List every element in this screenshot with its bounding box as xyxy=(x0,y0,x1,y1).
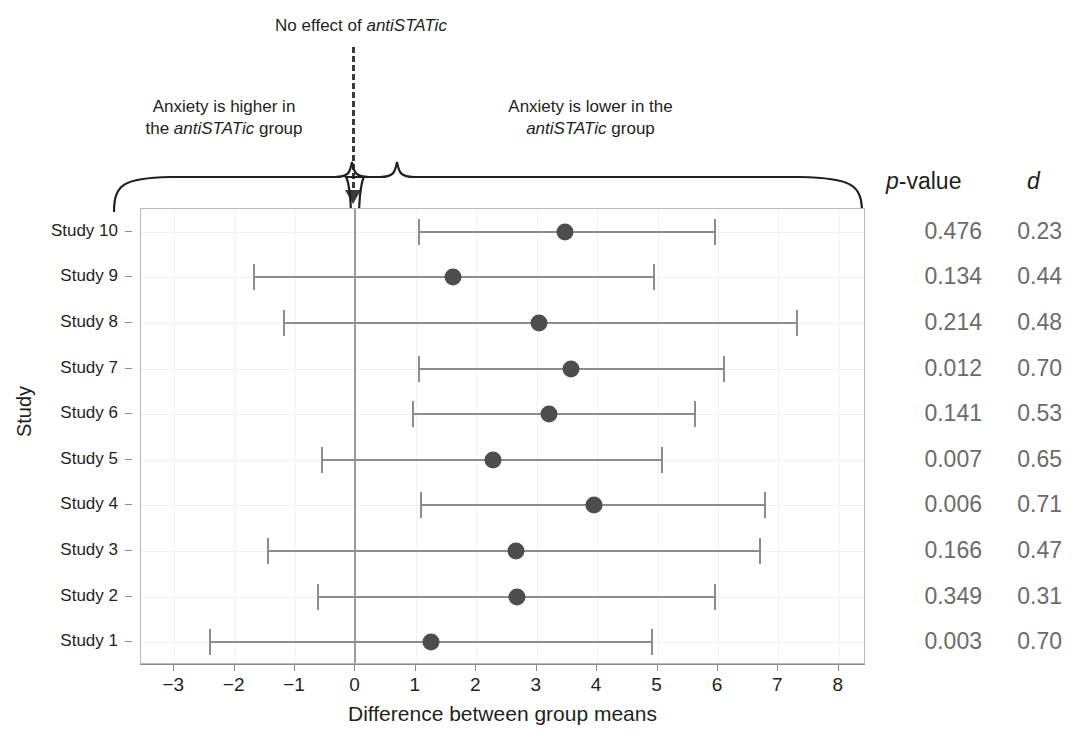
y-axis-tick xyxy=(125,413,132,414)
d-column-header: d xyxy=(1027,168,1040,195)
ci-upper-cap xyxy=(651,629,653,655)
right-bracket-line2-suffix: group xyxy=(607,119,655,138)
forest-row[interactable] xyxy=(141,528,864,574)
forest-row[interactable] xyxy=(141,619,864,665)
x-axis-tick-label: −3 xyxy=(162,674,184,696)
ci-upper-cap xyxy=(764,492,766,518)
effect-estimate-point[interactable] xyxy=(444,269,461,286)
forest-row[interactable] xyxy=(141,209,864,255)
y-axis-tick-label: Study 10 xyxy=(51,221,118,241)
ci-lower-cap xyxy=(418,219,420,245)
forest-plot-figure: No effect of antiSTATic Anxiety is highe… xyxy=(0,0,1092,756)
brace-icon-group xyxy=(110,160,880,215)
forest-row[interactable] xyxy=(141,574,864,620)
effect-estimate-point[interactable] xyxy=(484,451,501,468)
effect-size-cell: 0.23 xyxy=(1000,217,1062,244)
right-bracket-line1: Anxiety is lower in the xyxy=(468,96,713,118)
x-axis-tick-label: −1 xyxy=(283,674,305,696)
ci-lower-cap xyxy=(253,264,255,290)
ci-upper-cap xyxy=(796,310,798,336)
effect-estimate-point[interactable] xyxy=(530,314,547,331)
forest-row[interactable] xyxy=(141,391,864,437)
effect-size-cell: 0.44 xyxy=(1000,263,1062,290)
x-axis-tick-label: 4 xyxy=(591,674,602,696)
ci-lower-cap xyxy=(209,629,211,655)
p-value-column-header: p-value xyxy=(886,168,961,195)
x-axis-tick-label: 1 xyxy=(410,674,421,696)
effect-size-cell: 0.53 xyxy=(1000,400,1062,427)
ci-upper-cap xyxy=(661,447,663,473)
ci-upper-cap xyxy=(723,356,725,382)
d-italic: d xyxy=(1027,168,1040,194)
forest-row[interactable] xyxy=(141,346,864,392)
ci-lower-cap xyxy=(267,538,269,564)
y-axis-labels: Study 10Study 9Study 8Study 7Study 6Stud… xyxy=(0,208,132,664)
x-axis-tick xyxy=(294,664,295,671)
ci-lower-cap xyxy=(420,492,422,518)
effect-size-cell: 0.71 xyxy=(1000,491,1062,518)
y-axis-tick xyxy=(125,596,132,597)
left-brace-icon xyxy=(114,162,369,212)
x-axis-tick xyxy=(536,664,537,671)
p-value-cell: 0.012 xyxy=(886,354,982,381)
y-axis-tick-label: Study 3 xyxy=(60,540,118,560)
ci-lower-cap xyxy=(317,584,319,610)
effect-size-cell: 0.48 xyxy=(1000,309,1062,336)
y-axis-tick-label: Study 4 xyxy=(60,494,118,514)
x-axis-tick-label: 8 xyxy=(833,674,844,696)
p-value-cell: 0.141 xyxy=(886,400,982,427)
effect-estimate-point[interactable] xyxy=(562,360,579,377)
forest-row[interactable] xyxy=(141,255,864,301)
forest-row[interactable] xyxy=(141,437,864,483)
effect-size-cell: 0.47 xyxy=(1000,537,1062,564)
effect-size-cell: 0.70 xyxy=(1000,354,1062,381)
effect-estimate-point[interactable] xyxy=(556,223,573,240)
x-axis-tick-label: 6 xyxy=(712,674,723,696)
left-bracket-line2-prefix: the xyxy=(145,119,173,138)
x-axis-tick-label: 2 xyxy=(470,674,481,696)
forest-row[interactable] xyxy=(141,300,864,346)
left-bracket-line2-suffix: group xyxy=(254,119,302,138)
effect-estimate-point[interactable] xyxy=(507,542,524,559)
y-axis-tick-label: Study 8 xyxy=(60,312,118,332)
y-axis-tick-label: Study 6 xyxy=(60,403,118,423)
ci-upper-cap xyxy=(759,538,761,564)
y-axis-tick xyxy=(125,641,132,642)
effect-estimate-point[interactable] xyxy=(423,634,440,651)
y-axis-tick xyxy=(125,550,132,551)
right-brace-icon xyxy=(359,162,862,212)
right-bracket-annotation: Anxiety is lower in the antiSTATic group xyxy=(468,96,713,140)
p-value-cell: 0.166 xyxy=(886,537,982,564)
ci-upper-cap xyxy=(653,264,655,290)
effect-estimate-point[interactable] xyxy=(508,588,525,605)
x-axis-line xyxy=(140,664,865,665)
y-axis-tick xyxy=(125,276,132,277)
x-axis-tick xyxy=(475,664,476,671)
x-axis-tick xyxy=(657,664,658,671)
x-axis-tick xyxy=(173,664,174,671)
x-axis-tick xyxy=(415,664,416,671)
ci-upper-cap xyxy=(714,219,716,245)
x-axis-tick xyxy=(717,664,718,671)
effect-estimate-point[interactable] xyxy=(540,406,557,423)
y-axis-tick xyxy=(125,231,132,232)
p-value-rest: -value xyxy=(899,168,962,194)
y-axis-tick-label: Study 2 xyxy=(60,586,118,606)
left-bracket-line2: the antiSTATic group xyxy=(124,118,324,140)
y-axis-tick-label: Study 7 xyxy=(60,358,118,378)
ci-lower-cap xyxy=(283,310,285,336)
effect-estimate-point[interactable] xyxy=(586,497,603,514)
x-axis-tick xyxy=(596,664,597,671)
p-value-cell: 0.006 xyxy=(886,491,982,518)
y-axis-tick-label: Study 5 xyxy=(60,449,118,469)
ci-lower-cap xyxy=(321,447,323,473)
x-axis-tick xyxy=(234,664,235,671)
x-axis-tick-label: 7 xyxy=(772,674,783,696)
x-axis-tick xyxy=(777,664,778,671)
plot-inner xyxy=(141,209,864,663)
forest-row[interactable] xyxy=(141,483,864,529)
p-italic: p xyxy=(886,168,899,194)
ci-lower-cap xyxy=(418,356,420,382)
y-axis-tick-label: Study 1 xyxy=(60,631,118,651)
p-value-cell: 0.007 xyxy=(886,445,982,472)
